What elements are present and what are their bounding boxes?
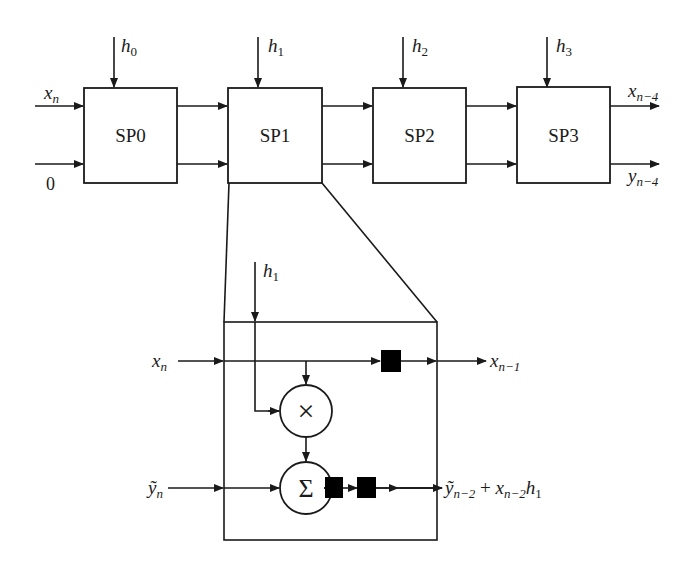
coef-h0-label: h0 <box>121 35 137 59</box>
delay-register-x <box>381 350 401 372</box>
input-zero-label: 0 <box>46 174 55 194</box>
output-y-label: yn−4 <box>626 165 659 189</box>
detail-xn-label: xn <box>151 350 167 374</box>
coef-h1-label: h1 <box>268 35 284 59</box>
coef-h3-label: h3 <box>556 35 572 59</box>
delay-register-y-2 <box>357 477 376 498</box>
detail-coef-wire <box>255 322 279 411</box>
input-xn-label: xn <box>43 82 59 106</box>
sp0-label: SP0 <box>115 125 146 146</box>
block-sp2: h2 SP2 <box>373 35 466 183</box>
output-x-label: xn−4 <box>627 80 659 104</box>
sp2-label: SP2 <box>404 125 435 146</box>
output-x: xn−4 <box>610 80 659 106</box>
block-sp1: h1 SP1 <box>228 35 322 183</box>
zoom-connector-left <box>224 183 229 322</box>
coef-h2-label: h2 <box>412 35 428 59</box>
zoom-connector-right <box>322 183 437 322</box>
output-y: yn−4 <box>610 164 659 189</box>
input-zero: 0 <box>35 164 83 194</box>
sp1-detail: h1 xn xn−1 × Σ ỹn <box>146 260 542 540</box>
detail-coef-label: h1 <box>263 260 279 284</box>
input-xn: xn <box>35 82 83 106</box>
detail-y-out-label: ỹn−2 + xn−2h1 <box>443 477 542 501</box>
multiply-icon: × <box>298 394 315 427</box>
block-sp3: h3 SP3 <box>517 35 610 183</box>
delay-register-y-1 <box>325 477 343 498</box>
sp1-detail-box <box>224 322 437 540</box>
sp1-label: SP1 <box>260 125 291 146</box>
detail-yn-label: ỹn <box>146 477 163 501</box>
sp3-label: SP3 <box>548 125 579 146</box>
block-sp0: h0 SP0 <box>84 35 177 183</box>
fir-systolic-diagram: xn 0 h0 SP0 h1 SP1 h2 SP2 h3 SP3 <box>0 0 693 575</box>
sum-icon: Σ <box>298 474 313 503</box>
detail-x-out-label: xn−1 <box>489 350 520 374</box>
